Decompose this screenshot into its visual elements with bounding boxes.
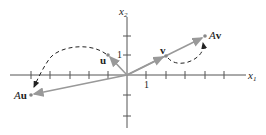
label-v: v bbox=[160, 45, 166, 56]
label-Au: Au bbox=[14, 90, 27, 101]
label-Av: Av bbox=[209, 30, 221, 41]
plot-svg bbox=[0, 0, 266, 135]
x-tick-label-1: 1 bbox=[144, 80, 149, 90]
x2-axis-label: x2 bbox=[119, 6, 127, 19]
label-u: u bbox=[100, 55, 106, 66]
vector-v bbox=[127, 54, 168, 75]
diagram-canvas: x2 x1 1 1 u Au v Av bbox=[0, 0, 266, 135]
vector-Au bbox=[29, 75, 127, 97]
x1-axis-label: x1 bbox=[248, 70, 256, 83]
y-tick-label-1: 1 bbox=[117, 50, 122, 60]
